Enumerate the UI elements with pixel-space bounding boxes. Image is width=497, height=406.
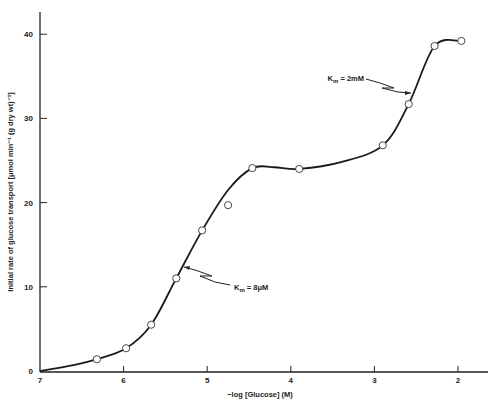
x-tick-label: 7 (38, 376, 43, 385)
x-tick-label: 3 (372, 376, 377, 385)
data-point (173, 275, 180, 282)
data-point (249, 164, 256, 171)
annotations: Km = 8μMKm = 2mM (184, 74, 411, 293)
data-points (93, 37, 465, 362)
data-point (148, 321, 155, 328)
x-tick-label: 5 (205, 376, 210, 385)
y-tick-label: 40 (24, 30, 33, 39)
km-annotation: Km = 8μM (234, 283, 268, 293)
km-annotation: Km = 2mM (328, 74, 364, 84)
y-tick-label: 10 (24, 283, 33, 292)
x-tick-label: 2 (456, 376, 461, 385)
x-axis: 765432 (38, 366, 488, 385)
data-point (405, 100, 412, 107)
x-tick-label: 6 (121, 376, 126, 385)
y-tick-label: 30 (24, 114, 33, 123)
fitted-curve (40, 40, 461, 371)
y-axis-title: Initial rate of glucose transport [μmol … (6, 92, 15, 292)
x-tick-label: 4 (289, 376, 294, 385)
y-tick-label: 20 (24, 199, 33, 208)
chart: 010203040 765432 Initial rate of glucose… (0, 0, 497, 406)
data-point (458, 37, 465, 44)
data-point (225, 202, 232, 209)
data-point (199, 227, 206, 234)
data-point (296, 165, 303, 172)
x-axis-title: −log [Glucose] (M) (227, 390, 293, 399)
y-tick-label: 0 (29, 367, 34, 376)
data-point (93, 356, 100, 363)
data-point (379, 142, 386, 149)
data-point (431, 42, 438, 49)
data-point (123, 345, 130, 352)
y-axis: 010203040 (24, 12, 47, 376)
